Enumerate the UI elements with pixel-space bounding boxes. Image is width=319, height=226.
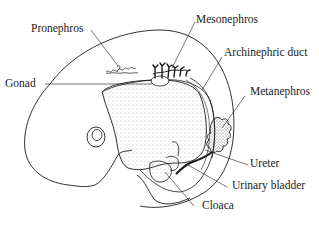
gonad-structure bbox=[151, 76, 169, 86]
label-gonad: Gonad bbox=[5, 78, 36, 90]
label-mesonephros: Mesonephros bbox=[196, 14, 258, 26]
cloaca-structure bbox=[150, 161, 172, 182]
label-metanephros: Metanephros bbox=[250, 86, 310, 98]
label-cloaca: Cloaca bbox=[202, 200, 234, 212]
metanephros-structure bbox=[207, 118, 231, 153]
pronephros-structure bbox=[106, 66, 138, 74]
label-pronephros: Pronephros bbox=[31, 23, 83, 35]
label-urinary-bladder: Urinary bladder bbox=[232, 180, 305, 192]
label-ureter: Ureter bbox=[250, 158, 279, 170]
eye-inner bbox=[92, 130, 102, 141]
label-archinephric-duct: Archinephric duct bbox=[224, 47, 307, 59]
